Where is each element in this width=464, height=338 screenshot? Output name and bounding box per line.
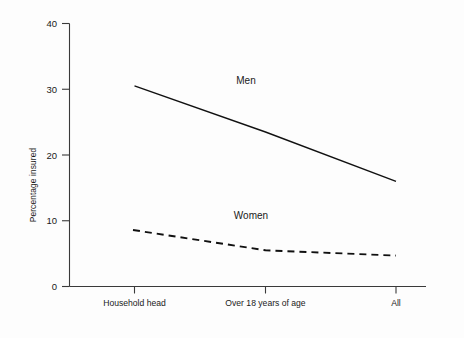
y-tick-label-30: 30 xyxy=(46,84,57,95)
y-tick-label-10: 10 xyxy=(46,215,57,226)
series-label-women: Women xyxy=(234,210,268,221)
y-tick-label-0: 0 xyxy=(52,281,57,292)
y-tick-label-20: 20 xyxy=(46,150,57,161)
series-line-women xyxy=(133,230,396,256)
chart-container: 40 30 20 10 0 Percentage insured Househo… xyxy=(0,0,464,338)
x-tick-label-over-18: Over 18 years of age xyxy=(225,298,305,308)
x-tick-label-household-head: Household head xyxy=(103,298,166,308)
x-tick-label-all: All xyxy=(391,298,401,308)
y-tick-label-40: 40 xyxy=(46,18,57,29)
series-label-men: Men xyxy=(236,75,255,86)
line-chart: 40 30 20 10 0 Percentage insured Househo… xyxy=(0,0,464,338)
series-line-men xyxy=(135,86,397,181)
y-axis-title: Percentage insured xyxy=(28,148,38,223)
